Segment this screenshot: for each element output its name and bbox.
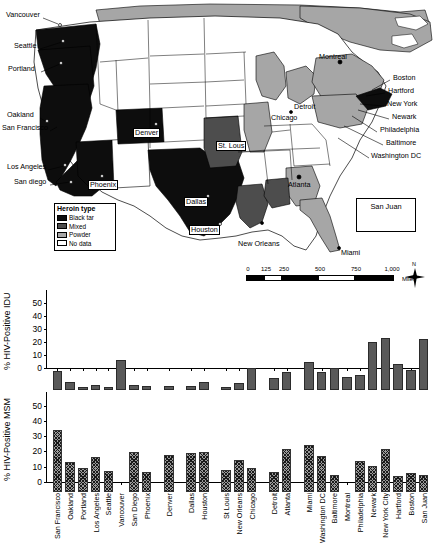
bar-idu-vancouver bbox=[116, 360, 125, 390]
bar-msm-baltimore bbox=[330, 475, 339, 492]
y-tickmark-idu-40 bbox=[44, 316, 47, 317]
y-tickmark-msm-40 bbox=[44, 421, 47, 422]
map-label-st-louis: St. Lous bbox=[216, 141, 246, 151]
legend-label-powder: Powder bbox=[69, 231, 91, 238]
bar-idu-detroit bbox=[269, 378, 278, 390]
x-tickmark-idu-0 bbox=[57, 368, 58, 371]
y-tickmark-idu-0 bbox=[44, 368, 47, 369]
bar-idu-san-diego bbox=[129, 385, 138, 390]
x-label-san-juan: San Juan bbox=[420, 493, 429, 523]
x-tickmark-idu-1 bbox=[70, 368, 71, 371]
y-axis-line-msm bbox=[46, 392, 47, 482]
legend-swatch-powder bbox=[57, 232, 67, 238]
x-label-montreal: Montreal bbox=[343, 493, 352, 521]
x-label-baltimore: Baltimore bbox=[330, 493, 339, 523]
legend-row-black-tar: Black tar bbox=[57, 214, 113, 223]
bar-idu-houston bbox=[199, 382, 208, 390]
bar-msm-detroit bbox=[269, 472, 278, 492]
map-label-denver: Denver bbox=[133, 128, 160, 138]
x-label-seattle: Seattle bbox=[104, 493, 113, 515]
x-tickmark-msm-5 bbox=[121, 482, 122, 485]
bar-idu-denver bbox=[164, 386, 173, 390]
chart-hiv-positive-idu: % HIV-Positive IDU01020304050 bbox=[0, 290, 434, 390]
bar-idu-hartford bbox=[393, 364, 402, 390]
legend-swatch-no-data bbox=[57, 240, 67, 246]
bar-msm-houston bbox=[199, 452, 208, 492]
scale-seg-5 bbox=[355, 276, 393, 280]
bar-msm-st-louis bbox=[221, 470, 230, 492]
x-label-san-diego: San Diego bbox=[130, 493, 139, 527]
x-tickmark-idu-10 bbox=[204, 368, 205, 371]
bar-msm-portland bbox=[78, 468, 87, 492]
x-tickmark-idu-11 bbox=[226, 368, 227, 371]
y-tick-idu-50: 50 bbox=[26, 298, 42, 308]
scale-tick-numbers: 0 125 250 500 750 1,000 bbox=[246, 266, 394, 275]
map-label-montreal: Montreal bbox=[319, 53, 347, 61]
bar-idu-san-juan bbox=[419, 339, 428, 390]
y-tick-idu-40: 40 bbox=[26, 311, 42, 321]
x-tickmark-idu-12 bbox=[239, 368, 240, 371]
bar-idu-dallas bbox=[186, 386, 195, 390]
x-label-new-york-city: New York City bbox=[381, 493, 390, 538]
bar-idu-new-orleans bbox=[234, 383, 243, 390]
x-tickmark-idu-3 bbox=[96, 368, 97, 371]
map-label-dallas: Dallas bbox=[184, 197, 208, 207]
figure: Vancouver Seattle Portland Oakland San F… bbox=[0, 0, 434, 550]
map-label-hartford: Hartford bbox=[388, 87, 414, 95]
y-tickmark-idu-20 bbox=[44, 342, 47, 343]
map-label-atlanta: Atlanta bbox=[288, 181, 310, 189]
bar-idu-montreal bbox=[342, 377, 351, 390]
map-legend: Heroin type Black tar Mixed Powder No da… bbox=[54, 203, 116, 251]
x-label-philadelphia: Philadelphia bbox=[356, 493, 365, 532]
x-tickmark-idu-15 bbox=[287, 368, 288, 371]
legend-row-mixed: Mixed bbox=[57, 222, 113, 231]
y-tick-idu-30: 30 bbox=[26, 324, 42, 334]
x-tickmark-idu-2 bbox=[83, 368, 84, 371]
scale-seg-4 bbox=[319, 276, 356, 280]
scale-seg-1 bbox=[247, 276, 265, 280]
y-tickmark-msm-30 bbox=[44, 436, 47, 437]
y-tickmark-msm-20 bbox=[44, 451, 47, 452]
x-label-los-angeles: Los Angeles bbox=[92, 493, 101, 532]
bar-msm-newark bbox=[368, 466, 377, 492]
map-label-philadelphia: Philadelphia bbox=[380, 126, 419, 134]
y-tick-idu-20: 20 bbox=[26, 337, 42, 347]
x-label-newark: Newark bbox=[369, 493, 378, 517]
map-label-washington-dc: Washington DC bbox=[371, 152, 421, 160]
legend-label-black-tar: Black tar bbox=[69, 214, 94, 221]
map-inset-san-juan: San Juan bbox=[356, 198, 416, 232]
bar-idu-washington-dc bbox=[317, 372, 326, 390]
map-scale-bar: 0 125 250 500 750 1,000 Miles bbox=[246, 266, 394, 281]
bar-idu-portland bbox=[78, 387, 87, 390]
x-tickmark-msm-19 bbox=[347, 482, 348, 485]
bar-msm-atlanta bbox=[282, 449, 291, 492]
y-axis-title-idu: % HIV-Positive IDU bbox=[2, 290, 12, 372]
x-label-hartford: Hartford bbox=[394, 493, 403, 519]
bar-msm-dallas bbox=[186, 453, 195, 492]
compass-rose-icon: N bbox=[404, 262, 426, 288]
compass-north-label: N bbox=[412, 261, 416, 267]
y-tickmark-idu-50 bbox=[44, 303, 47, 304]
legend-row-powder: Powder bbox=[57, 231, 113, 240]
x-label-washington-dc: Washington DC bbox=[318, 493, 327, 543]
x-tickmark-idu-4 bbox=[108, 368, 109, 371]
bar-msm-washington-dc bbox=[317, 456, 326, 492]
bar-idu-seattle bbox=[104, 387, 113, 390]
bar-msm-hartford bbox=[393, 476, 402, 492]
map-label-miami: Miami bbox=[341, 249, 360, 257]
y-tickmark-msm-10 bbox=[44, 467, 47, 468]
bar-idu-san-francisco bbox=[53, 371, 62, 390]
x-label-oakland: Oakland bbox=[66, 493, 75, 520]
bar-msm-new-orleans bbox=[234, 460, 243, 492]
bar-msm-philadelphia bbox=[355, 461, 364, 492]
x-label-phoenix: Phoenix bbox=[143, 493, 152, 519]
y-tick-msm-40: 40 bbox=[26, 416, 42, 426]
bar-msm-san-francisco bbox=[53, 430, 62, 492]
legend-swatch-black-tar bbox=[57, 215, 67, 221]
x-tickmark-idu-20 bbox=[360, 368, 361, 371]
bar-idu-atlanta bbox=[282, 372, 291, 390]
x-label-atlanta: Atlanta bbox=[283, 493, 292, 515]
y-tick-msm-10: 10 bbox=[26, 462, 42, 472]
y-axis-line-idu bbox=[46, 290, 47, 368]
x-tickmark-idu-17 bbox=[322, 368, 323, 371]
